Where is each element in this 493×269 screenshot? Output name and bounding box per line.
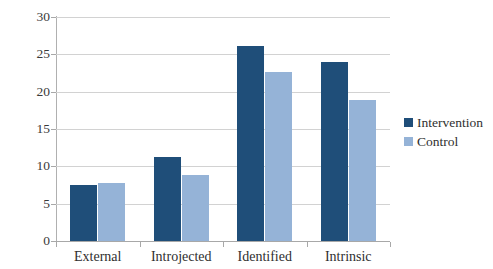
bar-control-external [98, 183, 125, 241]
y-axis-tick-labels: 051015202530 [0, 0, 50, 269]
bar-intervention-external [70, 185, 97, 241]
legend-item-control[interactable]: Control [404, 132, 493, 151]
bar-control-identified [265, 72, 292, 241]
legend-label: Control [417, 135, 458, 149]
legend: InterventionControl [404, 113, 493, 151]
legend-swatch-icon [404, 137, 413, 146]
x-axis-tick-mark [56, 242, 57, 247]
bar-intervention-identified [237, 46, 264, 241]
x-axis-tick-mark [140, 242, 141, 247]
x-axis-category-label: Intrinsic [288, 249, 408, 264]
y-axis-tick-label: 10 [6, 160, 50, 174]
bar-control-introjected [182, 175, 209, 241]
y-axis-tick-label: 30 [6, 10, 50, 24]
y-axis-tick-label: 20 [6, 85, 50, 99]
bar-control-intrinsic [349, 100, 376, 241]
y-axis-tick-label: 0 [6, 234, 50, 248]
x-axis-tick-mark [307, 242, 308, 247]
gridline [56, 54, 390, 55]
legend-item-intervention[interactable]: Intervention [404, 113, 493, 132]
bar-intervention-intrinsic [321, 62, 348, 241]
x-axis-tick-mark [223, 242, 224, 247]
chart-title [0, 0, 493, 4]
bar-chart: 051015202530 ExternalIntrojectedIdentifi… [0, 0, 493, 269]
y-axis-tick-label: 15 [6, 122, 50, 136]
legend-swatch-icon [404, 118, 413, 127]
x-axis-tick-mark [390, 242, 391, 247]
y-axis-tick-label: 5 [6, 197, 50, 211]
legend-label: Intervention [417, 116, 483, 130]
plot-area [56, 17, 390, 241]
gridline [56, 17, 390, 18]
y-axis-tick-label: 25 [6, 48, 50, 62]
bar-intervention-introjected [154, 157, 181, 241]
